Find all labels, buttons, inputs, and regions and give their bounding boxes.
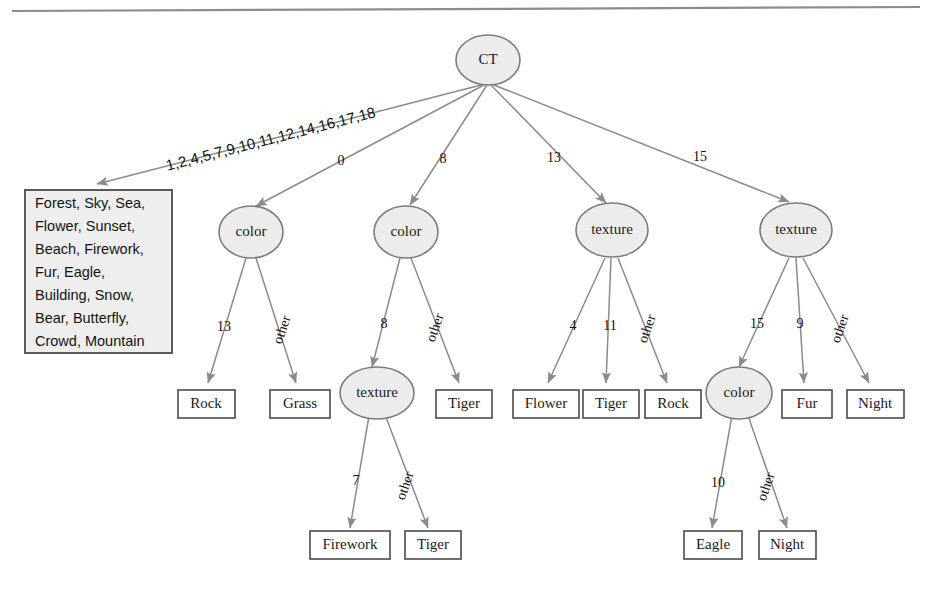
leaf-tiger-3[interactable]: Tiger — [583, 390, 639, 418]
leaf-label: Tiger — [417, 536, 449, 552]
leaf-eagle[interactable]: Eagle — [684, 531, 742, 559]
node-label: texture — [356, 384, 398, 400]
edge-texture2a-firework — [350, 404, 371, 528]
leaf-label: Rock — [190, 395, 222, 411]
edge-label-root-texture3: 13 — [547, 150, 561, 165]
leaf-grass-1[interactable]: Grass — [270, 390, 330, 418]
leaf-label: Grass — [283, 395, 317, 411]
node-label: texture — [591, 221, 633, 237]
edge-label-texture4-night: other — [828, 312, 852, 344]
edge-label-texture2a-tiger: other — [393, 469, 417, 501]
node-label: CT — [478, 51, 497, 67]
node-color-2[interactable]: color — [374, 206, 438, 258]
edge-label-texture2a-firework: 7 — [353, 473, 360, 488]
leaf-label: Eagle — [696, 536, 730, 552]
leaf-label: Rock — [657, 395, 689, 411]
edge-root-texture3 — [491, 85, 606, 203]
leaf-label: Flower — [525, 395, 568, 411]
leaf-label: Night — [770, 536, 805, 552]
leaf-night-4[interactable]: Night — [847, 390, 904, 418]
edge-label-color1-grass: other — [270, 313, 294, 345]
set-box-line: Beach, Firework, — [35, 241, 144, 257]
leaf-rock-3[interactable]: Rock — [645, 390, 701, 418]
node-label: color — [724, 384, 755, 400]
leaf-flower-3[interactable]: Flower — [513, 390, 579, 418]
edge-label-texture4-fur: 9 — [797, 316, 804, 331]
diagram-canvas: Forest, Sky, Sea, Flower, Sunset, Beach,… — [0, 0, 931, 590]
node-color-1[interactable]: color — [219, 206, 283, 258]
leaf-label: Tiger — [448, 395, 480, 411]
edge-label-root-texture4: 15 — [693, 149, 707, 164]
leaf-rock-1[interactable]: Rock — [178, 390, 235, 418]
node-texture-2a[interactable]: texture — [340, 367, 414, 419]
edge-label-root-setbox: 1,2,4,5,7,9,10,11,12,14,16,17,18 — [164, 103, 377, 173]
edge-label-texture3-rock: other — [635, 312, 659, 344]
edge-label-texture3-flower: 4 — [570, 318, 577, 333]
edge-label-color4a-night: other — [754, 470, 778, 502]
set-box-line: Fur, Eagle, — [35, 264, 105, 280]
node-root-ct[interactable]: CT — [456, 35, 520, 85]
set-box-line: Building, Snow, — [35, 287, 134, 303]
edge-label-texture4-color: 15 — [750, 316, 764, 331]
node-label: color — [391, 223, 422, 239]
edge-color2-texture — [372, 258, 400, 367]
edge-label-texture3-tiger: 11 — [603, 318, 616, 333]
leaf-label: Fur — [797, 395, 818, 411]
leaf-tiger-2b[interactable]: Tiger — [405, 531, 461, 559]
leaf-fur-4[interactable]: Fur — [782, 390, 832, 418]
edge-label-color1-rock: 13 — [217, 319, 231, 334]
edge-label-color4a-eagle: 10 — [711, 475, 725, 490]
leaf-tiger-2[interactable]: Tiger — [436, 390, 492, 418]
edge-texture4-color — [739, 258, 789, 367]
leaf-label: Tiger — [595, 395, 627, 411]
set-box: Forest, Sky, Sea, Flower, Sunset, Beach,… — [25, 190, 172, 353]
set-box-line: Bear, Butterfly, — [35, 310, 129, 326]
decision-tree-graphic: Forest, Sky, Sea, Flower, Sunset, Beach,… — [0, 0, 931, 590]
edge-label-root-color1: 0 — [338, 153, 345, 168]
page-rule — [12, 7, 920, 11]
node-label: color — [236, 223, 267, 239]
node-label: texture — [775, 221, 817, 237]
edge-color4a-eagle — [712, 404, 734, 528]
edge-labels-group: 1,2,4,5,7,9,10,11,12,14,16,17,18 0 8 13 … — [164, 103, 852, 502]
node-texture-3[interactable]: texture — [576, 203, 648, 257]
leaf-night-5[interactable]: Night — [759, 531, 816, 559]
edge-label-root-color2: 8 — [440, 151, 447, 166]
set-box-line: Flower, Sunset, — [35, 218, 135, 234]
set-box-line: Crowd, Mountain — [35, 333, 145, 349]
node-texture-4[interactable]: texture — [760, 203, 832, 257]
leaf-label: Night — [858, 395, 893, 411]
leaf-firework[interactable]: Firework — [310, 531, 390, 559]
leaf-label: Firework — [323, 536, 378, 552]
edge-label-color2-texture: 8 — [381, 316, 388, 331]
set-box-line: Forest, Sky, Sea, — [35, 195, 145, 211]
edge-label-color2-tiger: other — [423, 311, 447, 343]
node-color-4a[interactable]: color — [706, 367, 772, 419]
edge-texture2a-tiger — [381, 404, 428, 528]
edge-color4a-night — [744, 404, 787, 528]
edge-root-texture4 — [494, 85, 789, 202]
edge-texture3-flower — [548, 258, 605, 383]
